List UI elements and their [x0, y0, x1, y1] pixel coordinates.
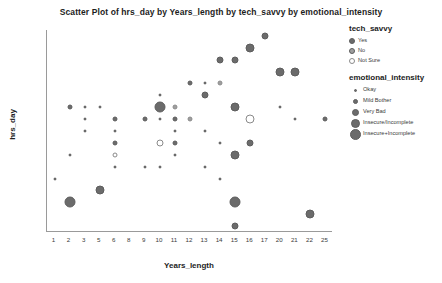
data-point	[291, 67, 300, 76]
legend-swatch-holder	[349, 109, 361, 116]
data-point	[202, 92, 209, 99]
data-point	[98, 106, 101, 109]
legend-size-circle-icon	[350, 129, 361, 140]
data-point	[142, 117, 147, 122]
size-legend-label: Insecure+Incomplete	[363, 131, 415, 137]
data-point	[173, 130, 176, 133]
size-legend-item[interactable]: Insecure+Incomplete	[349, 129, 442, 139]
size-legend-label: Insecure/Incomplete	[363, 120, 413, 126]
color-legend-label: Yes	[358, 38, 367, 44]
size-legend-item[interactable]: Insecure/Incomplete	[349, 118, 442, 128]
data-point	[158, 165, 161, 168]
size-legend-title: emotional_intensity	[349, 73, 442, 82]
x-tick-label: 12	[186, 236, 193, 243]
plot-area	[46, 30, 332, 232]
legend-size-circle-icon	[351, 119, 360, 128]
legend-size-circle-icon	[353, 99, 358, 104]
x-tick-label: 5	[97, 236, 100, 243]
legend-swatch-circle-icon	[349, 58, 355, 64]
x-tick-label: 3	[82, 236, 85, 243]
x-tick-label: 16	[246, 236, 253, 243]
size-legend-label: Mild Bother	[363, 98, 391, 104]
data-point	[113, 165, 116, 168]
color-legend-item[interactable]: Yes	[349, 36, 441, 45]
data-point	[246, 43, 255, 52]
data-point	[112, 152, 117, 157]
x-tick-label: 9	[142, 236, 145, 243]
data-point	[306, 210, 315, 219]
data-point	[294, 118, 297, 121]
data-point	[219, 177, 222, 180]
data-point	[112, 140, 117, 145]
x-tick-label: 8	[127, 236, 130, 243]
data-point	[188, 81, 193, 86]
legend-swatch-holder	[349, 99, 361, 104]
scatter-plot-figure: Scatter Plot of hrs_day by Years_length …	[0, 0, 442, 283]
data-point	[154, 102, 165, 113]
x-tick-label: 17	[261, 236, 268, 243]
legend-size-circle-icon	[352, 109, 359, 116]
data-point	[143, 165, 146, 168]
x-tick-label: 25	[321, 236, 328, 243]
data-point	[218, 81, 223, 86]
data-point	[247, 139, 254, 146]
data-point	[172, 140, 177, 145]
data-point	[231, 103, 240, 112]
data-point	[279, 106, 282, 109]
color-legend-title: tech_savvy	[349, 24, 441, 33]
color-legend-item[interactable]: No	[349, 46, 441, 55]
data-point	[188, 117, 193, 122]
data-point	[219, 141, 222, 144]
legend-swatch-circle-icon	[349, 38, 355, 44]
size-legend-item[interactable]: Mild Bother	[349, 96, 442, 106]
x-tick-label: 21	[291, 236, 298, 243]
data-point	[232, 56, 239, 63]
size-legend: emotional_intensity OkayMild BotherVery …	[349, 73, 442, 140]
size-legend-item[interactable]: Okay	[349, 85, 442, 95]
legend-size-circle-icon	[354, 89, 357, 92]
data-point	[323, 117, 328, 122]
x-tick-label: 22	[306, 236, 313, 243]
data-point	[83, 118, 86, 121]
data-point	[158, 118, 161, 121]
size-legend-item[interactable]: Very Bad	[349, 107, 442, 117]
data-point	[112, 117, 117, 122]
data-point	[262, 32, 269, 39]
x-tick-label: 10	[155, 236, 162, 243]
legend-swatch-circle-icon	[349, 48, 355, 54]
color-legend-label: No	[358, 48, 365, 54]
data-point	[231, 150, 240, 159]
data-point	[172, 117, 177, 122]
x-tick-label: 6	[112, 236, 115, 243]
x-tick-label: 20	[276, 236, 283, 243]
size-legend-label: Very Bad	[363, 109, 386, 115]
x-tick-label: 11	[171, 236, 177, 243]
color-legend-label: Not Sure	[358, 58, 380, 64]
legend-swatch-holder	[349, 129, 361, 140]
x-tick-label: 15	[231, 236, 238, 243]
legend-swatch-holder	[349, 89, 361, 92]
data-point	[172, 105, 177, 110]
x-tick-label: 1	[52, 236, 55, 243]
data-point	[246, 115, 255, 124]
x-tick-label: 2	[67, 236, 70, 243]
legend-swatch-holder	[349, 119, 361, 128]
data-point	[204, 165, 207, 168]
data-point	[158, 94, 161, 97]
data-point	[83, 106, 86, 109]
data-point	[230, 197, 241, 208]
data-point	[95, 186, 104, 195]
data-point	[232, 223, 239, 230]
data-point	[113, 130, 116, 133]
x-tick-label: 14	[216, 236, 223, 243]
data-point	[156, 139, 163, 146]
data-point	[204, 82, 207, 85]
data-point	[276, 67, 285, 76]
data-point	[68, 153, 71, 156]
size-legend-label: Okay	[363, 87, 376, 93]
color-legend-item[interactable]: Not Sure	[349, 56, 441, 65]
color-legend: tech_savvy YesNoNot Sure	[349, 24, 441, 66]
data-point	[67, 105, 72, 110]
data-point	[217, 56, 224, 63]
data-point	[83, 130, 86, 133]
